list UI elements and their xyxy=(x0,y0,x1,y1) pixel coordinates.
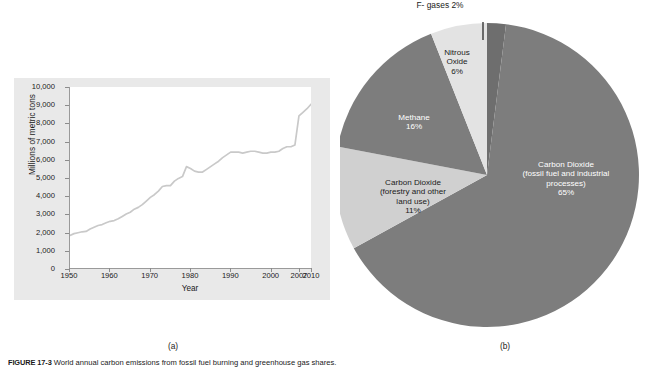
x-axis-tick-mark xyxy=(109,268,110,272)
figure-container: 01,0002,0003,0004,0005,0006,0007,0008,00… xyxy=(0,0,672,367)
y-axis-tick-label: 1,000 xyxy=(36,247,55,255)
y-axis-tick-label: 3,000 xyxy=(36,210,55,218)
y-axis-tick-label: 9,000 xyxy=(36,101,55,109)
x-axis-tick-mark xyxy=(69,268,70,272)
y-axis-tick-label: 2,000 xyxy=(36,229,55,237)
x-axis-tick-label: 1980 xyxy=(182,272,199,280)
panel-a-caption: (a) xyxy=(118,341,228,351)
line-chart-panel: 01,0002,0003,0004,0005,0006,0007,0008,00… xyxy=(14,78,330,300)
y-axis-tick-label: 8,000 xyxy=(36,119,55,127)
emissions-line-series xyxy=(70,87,311,268)
panel-b-caption: (b) xyxy=(450,341,560,351)
x-axis-tick-mark xyxy=(299,268,300,272)
x-axis-tick-label: 1960 xyxy=(101,272,118,280)
x-axis-tick-label: 1970 xyxy=(141,272,158,280)
y-axis-tick-label: 4,000 xyxy=(36,192,55,200)
slice-label-methane: Methane 16% xyxy=(368,113,460,132)
y-axis-tick-label: 5,000 xyxy=(36,174,55,182)
y-axis-tick-labels: 01,0002,0003,0004,0005,0006,0007,0008,00… xyxy=(14,78,64,278)
slice-label-nitrous-oxide: Nitrous Oxide 6% xyxy=(424,48,490,76)
slice-label-percent: 11% xyxy=(405,206,421,215)
x-axis-tick-label: 1990 xyxy=(222,272,239,280)
slice-label-co2-forestry: Carbon Dioxide (forestry and other land … xyxy=(349,178,477,216)
x-axis-tick-mark xyxy=(150,268,151,272)
slice-label-line: Carbon Dioxide xyxy=(538,160,594,169)
x-axis-tick-label: 2010 xyxy=(303,272,320,280)
figure-caption: FIGURE 17-3 World annual carbon emission… xyxy=(8,358,648,367)
x-axis-tick-mark xyxy=(311,268,312,272)
slice-label-percent: 16% xyxy=(406,122,422,131)
y-axis-tick-label: 6,000 xyxy=(36,156,55,164)
slice-label-percent: 6% xyxy=(451,67,463,76)
plot-area xyxy=(69,87,311,269)
figure-caption-label: FIGURE 17-3 xyxy=(8,358,52,367)
slice-label-line: Carbon Dioxide xyxy=(385,178,441,187)
slice-label-line: Methane xyxy=(398,113,430,122)
y-axis-tick-label: 7,000 xyxy=(36,138,55,146)
y-axis-title: Millions of metric tons xyxy=(28,65,37,205)
pie-chart-panel: Carbon Dioxide (fossil fuel and industri… xyxy=(340,0,672,338)
slice-label-line: (fossil fuel and industrial xyxy=(523,169,610,178)
y-axis-tick-label: 0 xyxy=(51,265,55,273)
slice-label-line: Nitrous xyxy=(444,48,470,57)
slice-label-percent: 65% xyxy=(558,188,574,197)
figure-caption-text: World annual carbon emissions from fossi… xyxy=(54,358,337,367)
x-axis-title: Year xyxy=(69,284,311,293)
slice-label-line: land use) xyxy=(396,197,429,206)
x-axis-tick-label: 2000 xyxy=(262,272,279,280)
slice-label-co2-fossil: Carbon Dioxide (fossil fuel and industri… xyxy=(500,160,632,198)
slice-label-line: Oxide xyxy=(446,57,467,66)
slice-label-line: processes) xyxy=(546,179,586,188)
x-axis-tick-mark xyxy=(230,268,231,272)
x-axis-tick-mark xyxy=(190,268,191,272)
x-axis-tick-label: 1950 xyxy=(61,272,78,280)
x-axis-tick-mark xyxy=(271,268,272,272)
slice-label-line: (forestry and other xyxy=(380,187,446,196)
